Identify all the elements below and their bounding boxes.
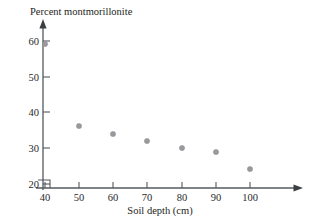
y-tick-label-40: 40 <box>29 107 40 118</box>
x-axis-title: Soil depth (cm) <box>127 205 193 217</box>
x-tick-label-100: 100 <box>242 192 258 203</box>
x-tick-label-50: 50 <box>74 192 85 203</box>
y-axis-title: Percent montmorillonite <box>30 6 133 17</box>
y-tick-label-60: 60 <box>29 36 40 47</box>
x-tick-label-40: 40 <box>40 192 51 203</box>
scatter-plot: Percent montmorillonite 20 30 40 50 60 4… <box>0 0 314 218</box>
chart-page: Percent montmorillonite 20 30 40 50 60 4… <box>0 0 314 218</box>
data-point <box>110 131 115 136</box>
data-point <box>144 138 149 143</box>
x-tick-label-80: 80 <box>177 192 188 203</box>
x-tick-label-90: 90 <box>211 192 222 203</box>
x-tick-label-60: 60 <box>108 192 119 203</box>
y-tick-label-30: 30 <box>29 143 40 154</box>
data-point <box>213 149 218 154</box>
y-tick-label-20: 20 <box>29 179 40 190</box>
y-tick-label-50: 50 <box>29 72 40 83</box>
y-axis-arrow-icon <box>39 19 46 29</box>
data-point <box>42 41 47 46</box>
data-point <box>76 123 81 128</box>
x-axis-arrow-icon <box>294 184 304 191</box>
data-point <box>179 145 184 150</box>
x-tick-label-70: 70 <box>142 192 153 203</box>
data-point <box>247 166 252 171</box>
